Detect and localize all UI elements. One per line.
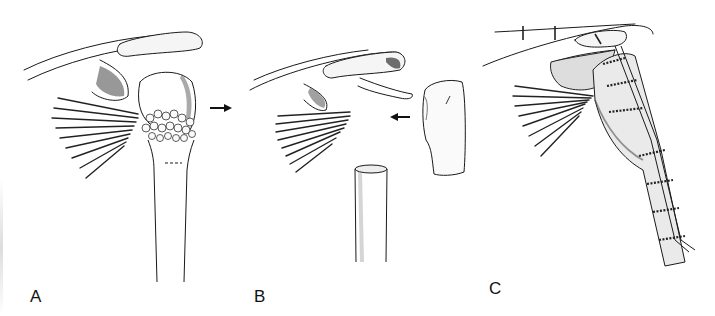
resection-illustration <box>240 0 475 316</box>
panel-label-a: A <box>30 287 41 307</box>
arrow-left-icon <box>390 113 410 121</box>
panel-label-b: B <box>254 287 265 307</box>
panel-b: B <box>240 0 475 316</box>
panel-label-c: C <box>489 279 501 299</box>
panel-c: C <box>475 0 715 316</box>
reconstruction-illustration <box>475 0 715 316</box>
panel-a: A <box>0 0 240 316</box>
arrow-right-icon <box>210 104 232 112</box>
shoulder-tumor-illustration <box>0 0 240 316</box>
